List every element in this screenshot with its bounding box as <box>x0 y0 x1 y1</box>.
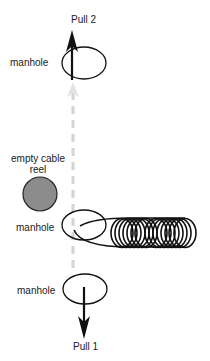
reel-label-line2: reel <box>6 164 70 175</box>
manhole-middle-ellipse <box>62 210 106 240</box>
manhole-top-ellipse <box>62 47 106 79</box>
pull-1-label: Pull 1 <box>73 341 98 352</box>
manhole-middle-label: manhole <box>16 222 54 233</box>
manhole-top-label: manhole <box>10 57 48 68</box>
diagram-canvas <box>0 0 210 361</box>
pull-2-label: Pull 2 <box>71 14 96 25</box>
cable-coil-icon <box>74 218 196 248</box>
pull-1-arrow-icon <box>78 287 90 339</box>
empty-cable-reel-icon <box>23 177 57 211</box>
reel-label-line1: empty cable <box>6 153 70 164</box>
pull-2-arrow-icon <box>66 30 78 80</box>
cable-path-dashed <box>67 82 79 272</box>
manhole-bottom-label: manhole <box>17 285 55 296</box>
